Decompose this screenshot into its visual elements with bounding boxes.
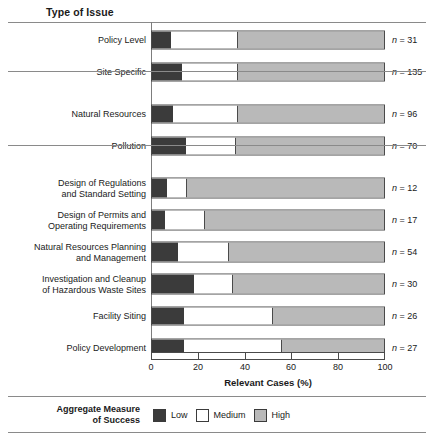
row-label-line1: Natural Resources [71,109,146,119]
stacked-bar[interactable] [151,242,385,263]
sample-size-label: n = 26 [392,311,417,321]
bar-segment-medium[interactable] [186,138,236,155]
bar-segment-low[interactable] [152,275,194,294]
legend-title: Aggregate Measure of Success [8,404,145,426]
bar-row: Facility Sitingn = 26 [0,300,434,332]
row-label-line1: Natural Resources Planning [34,242,146,252]
x-tick-mark [198,352,199,360]
row-label-line1: Facility Siting [93,311,146,321]
bar-row: Pollutionn = 70 [0,130,434,162]
row-label: Investigation and Cleanupof Hazardous Wa… [6,274,146,295]
bar-segment-high[interactable] [238,106,384,123]
sample-size-label: n = 30 [392,279,417,289]
stacked-bar[interactable] [151,274,385,295]
bar-row: Policy Leveln = 31 [0,24,434,56]
bar-segment-high[interactable] [238,32,384,49]
legend-label-high: High [272,410,291,420]
row-label: Design of Permits andOperating Requireme… [6,210,146,231]
row-label: Natural Resources Planningand Management [6,242,146,263]
sample-size-value: = 12 [397,183,417,193]
stacked-bar[interactable] [151,178,385,199]
row-label: Natural Resources [6,109,146,120]
bar-segment-medium[interactable] [165,211,205,230]
x-axis [151,352,385,360]
bar-segment-high[interactable] [229,243,384,262]
row-label: Pollution [6,141,146,152]
sample-size-label: n = 17 [392,215,417,225]
bar-segment-medium[interactable] [184,308,272,325]
legend-item-high[interactable]: High [254,409,291,422]
group-divider [8,145,426,146]
bar-segment-high[interactable] [205,211,384,230]
stacked-bar[interactable] [151,105,385,124]
stacked-bar[interactable] [151,137,385,156]
bar-row: Natural Resources Planningand Management… [0,236,434,268]
stacked-bar[interactable] [151,31,385,50]
group-divider [8,71,426,72]
stacked-bar[interactable] [151,63,385,82]
bar-segment-medium[interactable] [182,64,238,81]
sample-size-value: = 26 [397,311,417,321]
row-label-line1: Design of Permits and [57,210,146,220]
row-label: Design of Regulationsand Standard Settin… [6,178,146,199]
stacked-bar[interactable] [151,210,385,231]
bar-segment-medium[interactable] [173,106,238,123]
legend-rule-bottom [8,432,426,433]
x-axis-title: Relevant Cases (%) [151,377,385,388]
legend-label-low: Low [171,410,188,420]
legend: Aggregate Measure of Success Low Medium … [8,400,426,430]
row-label-line1: Design of Regulations [58,178,146,188]
bar-segment-high[interactable] [233,275,384,294]
bar-segment-low[interactable] [152,64,182,81]
row-label: Site Specific [6,67,146,78]
legend-swatch-medium-icon [196,409,209,422]
bar-segment-medium[interactable] [167,179,187,198]
row-label: Facility Siting [6,311,146,322]
legend-item-low[interactable]: Low [153,409,188,422]
bar-row: Site Specificn = 135 [0,56,434,88]
legend-rule-top [8,396,426,397]
legend-item-medium[interactable]: Medium [196,409,246,422]
bar-segment-low[interactable] [152,179,167,198]
row-label-line2: Operating Requirements [48,220,146,230]
bar-segment-low[interactable] [152,308,184,325]
sample-size-value: = 30 [397,279,417,289]
stacked-bar[interactable] [151,307,385,326]
bar-segment-medium[interactable] [194,275,233,294]
x-tick-label: 0 [148,362,153,372]
legend-label-medium: Medium [214,410,246,420]
bar-segment-low[interactable] [152,211,165,230]
bar-segment-low[interactable] [152,32,171,49]
x-tick-label: 40 [240,362,250,372]
bar-segment-medium[interactable] [171,32,238,49]
bar-segment-low[interactable] [152,138,186,155]
sample-size-value: = 31 [397,35,417,45]
bar-segment-low[interactable] [152,106,173,123]
row-label-line2: and Management [76,252,146,262]
bar-segment-low[interactable] [152,243,178,262]
x-tick-mark [338,352,339,360]
bar-segment-medium[interactable] [178,243,229,262]
legend-swatch-low-icon [153,409,166,422]
sample-size-label: n = 12 [392,183,417,193]
legend-title-line1: Aggregate Measure [56,404,140,414]
sample-size-value: = 17 [397,215,417,225]
sample-size-value: = 70 [397,141,417,151]
bar-row: Design of Regulationsand Standard Settin… [0,172,434,204]
x-tick-label: 100 [377,362,392,372]
bar-segment-high[interactable] [236,138,385,155]
bar-segment-high[interactable] [273,308,384,325]
bar-row: Investigation and Cleanupof Hazardous Wa… [0,268,434,300]
x-tick-label: 20 [193,362,203,372]
row-label-line2: of Hazardous Waste Sites [42,284,146,294]
bar-segment-high[interactable] [238,64,384,81]
x-tick-mark [245,352,246,360]
row-label: Policy Level [6,35,146,46]
sample-size-label: n = 96 [392,109,417,119]
bar-segment-high[interactable] [187,179,384,198]
row-label-line1: Investigation and Cleanup [42,274,146,284]
column-header-type-of-issue: Type of Issue [46,6,114,18]
sample-size-value: = 27 [397,343,417,353]
sample-size-value: = 96 [397,109,417,119]
row-label-line1: Policy Level [98,35,146,45]
